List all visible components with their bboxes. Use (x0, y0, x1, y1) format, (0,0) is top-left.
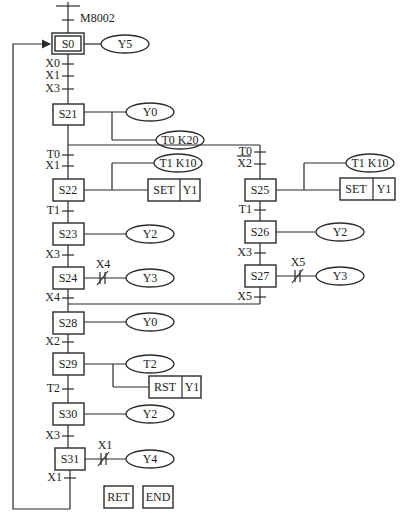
step-s24[interactable]: S24 (53, 267, 84, 289)
timer-t0: T0 K20 (156, 131, 204, 149)
action-y0: Y0 (126, 313, 174, 331)
transition-label: X3 (45, 428, 60, 442)
step-s22[interactable]: S22 (53, 179, 84, 201)
svg-text:S24: S24 (59, 271, 78, 285)
step-s27[interactable]: S27 (245, 265, 276, 287)
svg-text:SET: SET (345, 182, 367, 196)
timer-t1: T1 K10 (346, 154, 394, 172)
svg-text:RET: RET (107, 490, 130, 504)
svg-text:Y0: Y0 (143, 105, 158, 119)
svg-text:X1: X1 (98, 438, 113, 452)
set-instruction: SET Y1 (148, 179, 200, 201)
svg-text:S30: S30 (59, 407, 78, 421)
svg-text:S21: S21 (59, 107, 78, 121)
transition-label: T1 (239, 202, 252, 216)
svg-text:S22: S22 (59, 183, 78, 197)
end-box: END (143, 486, 173, 508)
nc-contact-x1: X1 (98, 438, 113, 466)
svg-text:Y3: Y3 (143, 271, 158, 285)
sfc-diagram: M8002 S0 Y5 X0 X1 X3 S21 Y0 T0 K20 T0 X1 (0, 0, 408, 524)
transition-label: X3 (237, 245, 252, 259)
svg-text:Y1: Y1 (377, 182, 392, 196)
action-y2: Y2 (316, 223, 364, 241)
transition-label: X1 (47, 470, 62, 484)
svg-text:S23: S23 (59, 227, 78, 241)
svg-text:S28: S28 (59, 316, 78, 330)
set-instruction: SET Y1 (340, 178, 395, 200)
svg-text:Y2: Y2 (143, 227, 158, 241)
step-s21[interactable]: S21 (53, 104, 84, 125)
step-s28[interactable]: S28 (53, 312, 84, 334)
action-y3: Y3 (126, 269, 174, 287)
step-s31[interactable]: S31 (55, 448, 85, 470)
transition-label: X1 (45, 158, 60, 172)
transition-label-negated: X2 (237, 156, 252, 170)
transition-label: X2 (45, 334, 60, 348)
svg-text:S31: S31 (61, 452, 80, 466)
svg-text:T1 K10: T1 K10 (160, 156, 197, 170)
svg-text:Y2: Y2 (143, 407, 158, 421)
transition-label: X1 (45, 68, 60, 82)
step-s26[interactable]: S26 (245, 221, 276, 243)
step-s23[interactable]: S23 (53, 223, 84, 245)
step-s25[interactable]: S25 (245, 179, 276, 201)
svg-text:RST: RST (154, 380, 177, 394)
svg-text:X5: X5 (291, 255, 306, 269)
action-y5: Y5 (101, 35, 149, 53)
action-y0: Y0 (126, 103, 174, 121)
transition-label: M8002 (80, 11, 115, 25)
svg-text:SET: SET (153, 183, 175, 197)
transition-label: X3 (45, 247, 60, 261)
transition-label: X4 (45, 290, 60, 304)
step-s29[interactable]: S29 (53, 353, 84, 375)
ret-box: RET (104, 486, 133, 508)
action-y3: Y3 (316, 267, 364, 285)
svg-text:Y5: Y5 (118, 37, 133, 51)
step-s0[interactable]: S0 (52, 33, 84, 54)
step-label: S0 (62, 37, 75, 51)
svg-text:T2: T2 (143, 357, 156, 371)
action-y2: Y2 (126, 225, 174, 243)
svg-text:Y2: Y2 (333, 225, 348, 239)
svg-text:X4: X4 (96, 257, 111, 271)
svg-text:Y3: Y3 (333, 269, 348, 283)
svg-text:END: END (146, 490, 171, 504)
rst-instruction: RST Y1 (149, 376, 201, 398)
svg-text:S27: S27 (251, 269, 270, 283)
transition-label: X5 (237, 289, 252, 303)
transition-label: T1 (47, 203, 60, 217)
action-y2: Y2 (126, 405, 174, 423)
svg-text:T1 K10: T1 K10 (352, 156, 389, 170)
transition-label: T2 (47, 381, 60, 395)
timer-t1: T1 K10 (154, 154, 202, 172)
transition-label: X3 (45, 81, 60, 95)
svg-text:Y1: Y1 (183, 183, 198, 197)
timer-t2: T2 (126, 355, 174, 373)
svg-text:S29: S29 (59, 357, 78, 371)
nc-contact-x5: X5 (291, 255, 306, 283)
init-transition: M8002 (56, 2, 115, 34)
svg-text:Y1: Y1 (185, 380, 200, 394)
nc-contact-x4: X4 (96, 257, 111, 285)
svg-text:Y4: Y4 (143, 452, 158, 466)
svg-text:S26: S26 (251, 225, 270, 239)
svg-text:S25: S25 (251, 183, 270, 197)
svg-text:Y0: Y0 (143, 315, 158, 329)
step-s30[interactable]: S30 (53, 403, 84, 425)
action-y4: Y4 (126, 450, 174, 468)
